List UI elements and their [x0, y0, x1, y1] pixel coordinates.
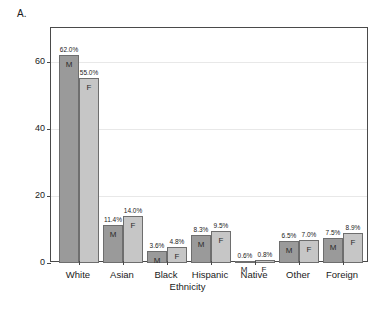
bar-asian-f[interactable]: F	[123, 216, 143, 263]
y-axis-tick: 0	[29, 263, 51, 264]
bar-series-label: M	[104, 230, 122, 239]
bar-hispanic-m[interactable]: M	[191, 235, 211, 263]
x-category-label-foreign: Foreign	[312, 269, 372, 280]
bar-series-label: F	[344, 238, 362, 247]
bar-series-label: F	[212, 236, 230, 245]
bar-series-label: F	[124, 221, 142, 230]
bar-other-f[interactable]: F	[299, 240, 319, 264]
x-tick-mark	[343, 261, 344, 265]
bar-native-f[interactable]	[255, 260, 275, 263]
bar-value-label: 7.0%	[296, 231, 322, 238]
gridline	[51, 62, 367, 63]
y-tick-mark	[47, 263, 51, 264]
bar-value-label: 0.8%	[252, 251, 278, 258]
y-axis-tick: 60	[29, 62, 51, 63]
y-tick-mark	[47, 62, 51, 63]
x-tick-mark	[167, 261, 168, 265]
bar-series-label: F	[80, 83, 98, 92]
bar-series-label: F	[300, 245, 318, 254]
bar-value-label: 62.0%	[56, 46, 82, 53]
x-tick-mark	[211, 261, 212, 265]
bar-white-f[interactable]: F	[79, 78, 99, 263]
bar-other-m[interactable]: M	[279, 241, 299, 263]
y-axis-tick: 40	[29, 129, 51, 130]
y-tick-label: 20	[35, 190, 45, 200]
bar-foreign-f[interactable]: F	[343, 233, 363, 263]
bar-value-label: 8.9%	[340, 224, 366, 231]
bar-series-label: M	[60, 60, 78, 69]
x-tick-mark	[299, 261, 300, 265]
bar-value-label: 55.0%	[76, 69, 102, 76]
bar-value-label: 4.8%	[164, 238, 190, 245]
bar-black-m[interactable]: M	[147, 251, 167, 263]
y-tick-mark	[47, 129, 51, 130]
plot-area: Percent0204060M62.0%F55.0%M11.4%F14.0%M3…	[50, 27, 368, 262]
y-tick-label: 40	[35, 123, 45, 133]
y-tick-mark	[47, 196, 51, 197]
bar-series-label: M	[280, 246, 298, 255]
panel-label: A.	[17, 8, 27, 19]
x-axis-title: Ethnicity	[0, 281, 375, 292]
bar-black-f[interactable]: F	[167, 247, 187, 263]
bar-series-label: M	[148, 256, 166, 265]
y-tick-label: 60	[35, 56, 45, 66]
bar-series-label: M	[192, 240, 210, 249]
x-tick-mark	[123, 261, 124, 265]
bar-value-label: 14.0%	[120, 207, 146, 214]
bar-white-m[interactable]: M	[59, 55, 79, 263]
bar-asian-m[interactable]: M	[103, 225, 123, 263]
bar-series-label: F	[168, 252, 186, 261]
y-axis-tick: 20	[29, 196, 51, 197]
figure-panel-a: A. Percent0204060M62.0%F55.0%M11.4%F14.0…	[0, 0, 375, 317]
x-tick-mark	[79, 261, 80, 265]
bar-hispanic-f[interactable]: F	[211, 231, 231, 263]
bar-series-label: M	[324, 243, 342, 252]
bar-value-label: 9.5%	[208, 222, 234, 229]
bar-native-m[interactable]	[235, 261, 255, 264]
y-tick-label: 0	[40, 257, 45, 267]
bar-foreign-m[interactable]: M	[323, 238, 343, 263]
